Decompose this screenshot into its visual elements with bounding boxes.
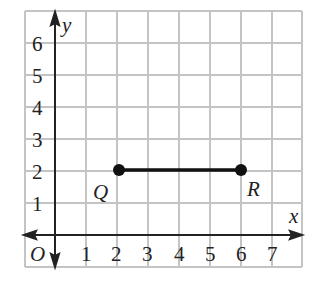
x-tick-5: 5 — [205, 242, 216, 266]
point-q-label: Q — [93, 180, 108, 204]
y-tick-6: 6 — [32, 32, 43, 56]
x-tick-7: 7 — [267, 242, 278, 266]
y-axis-up-arrow-icon — [51, 12, 59, 25]
y-tick-4: 4 — [32, 96, 43, 120]
y-tick-labels: 6 5 4 3 2 1 — [32, 32, 43, 216]
x-tick-4: 4 — [174, 242, 185, 266]
x-tick-labels: 1 2 3 4 5 6 7 — [81, 242, 278, 266]
x-axis-right-arrow-icon — [290, 231, 302, 239]
y-axis-label: y — [60, 13, 72, 37]
grid — [25, 11, 302, 267]
point-q-dot — [113, 164, 125, 176]
point-r-dot — [235, 164, 247, 176]
x-tick-3: 3 — [142, 242, 153, 266]
origin-label: O — [30, 242, 45, 266]
y-axis-down-arrow-icon — [51, 254, 59, 267]
point-r-label: R — [246, 177, 260, 201]
x-tick-2: 2 — [111, 242, 122, 266]
x-tick-1: 1 — [81, 242, 92, 266]
y-tick-1: 1 — [32, 192, 43, 216]
x-axis — [24, 231, 302, 239]
x-tick-6: 6 — [236, 242, 247, 266]
y-tick-3: 3 — [32, 128, 43, 152]
coordinate-plane: 6 5 4 3 2 1 1 2 3 4 5 6 7 O y x Q R — [0, 0, 324, 287]
y-tick-5: 5 — [32, 64, 43, 88]
x-axis-label: x — [288, 204, 299, 228]
y-tick-2: 2 — [32, 160, 43, 184]
